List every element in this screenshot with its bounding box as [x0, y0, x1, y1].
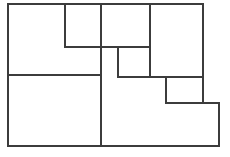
- dissected-rectangle-diagram: Dissected rectangle line drawing Black l…: [0, 0, 230, 157]
- figure-canvas: Dissected rectangle line drawing Black l…: [0, 0, 230, 157]
- figure-background: [0, 0, 230, 157]
